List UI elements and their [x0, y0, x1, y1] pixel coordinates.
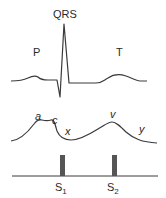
s2-label: S2: [107, 181, 119, 196]
y-descent-label: y: [138, 123, 146, 135]
t-wave-label: T: [116, 46, 123, 58]
c-wave-label: c: [52, 114, 58, 126]
cardiac-cycle-diagram: QRS P T a c x v y S1 S2: [0, 0, 166, 198]
x-descent-label: x: [64, 125, 71, 137]
a-wave-label: a: [35, 110, 41, 122]
s2-bar: [112, 155, 117, 176]
p-wave-label: P: [33, 46, 40, 58]
jvp-waveform: [11, 120, 157, 143]
qrs-label: QRS: [53, 8, 77, 20]
s1-bar: [60, 155, 65, 176]
s1-label: S1: [55, 181, 67, 196]
v-wave-label: v: [110, 108, 117, 120]
ecg-trace: [11, 24, 147, 97]
